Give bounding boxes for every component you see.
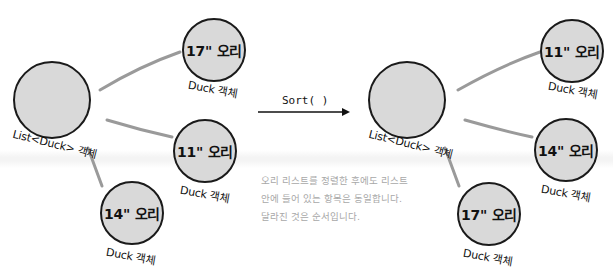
note-line: 달라진 것은 순서입니다. [261,208,408,226]
sort-operation-label: Sort( ) [282,94,328,107]
duck-after-3: 17" 오리 [457,182,521,246]
connector-after-1 [458,52,540,90]
annotation-note: 오리 리스트를 정렬한 후에도 리스트 안에 들어 있는 항목은 동일합니다. … [261,172,408,226]
duck-before-1: 17" 오리 [182,18,246,82]
connector-lines [0,0,613,277]
connector-before-1 [100,52,180,90]
duck-before-3: 14" 오리 [100,181,164,245]
duck-after-2: 14" 오리 [534,118,598,182]
duck-after-1: 11" 오리 [540,19,604,83]
duck-title: 17" 오리 [461,204,517,224]
connector-after-2 [465,120,532,137]
connector-before-2 [107,120,172,137]
duck-title: 11" 오리 [177,141,233,161]
duck-title: 11" 오리 [544,41,600,61]
duck-title: 14" 오리 [538,140,594,160]
note-line: 오리 리스트를 정렬한 후에도 리스트 [261,172,408,190]
duck-title: 14" 오리 [104,203,160,223]
duck-title: 17" 오리 [186,40,242,60]
duck-before-2: 11" 오리 [173,119,237,183]
sort-arrow-head [342,108,350,116]
note-line: 안에 들어 있는 항목은 동일합니다. [261,190,408,208]
